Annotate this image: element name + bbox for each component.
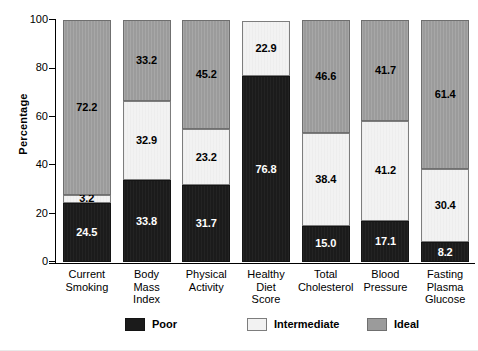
- legend-label: Ideal: [394, 319, 419, 330]
- bar-segment[interactable]: 38.4: [302, 133, 350, 226]
- legend-swatch-icon: [125, 318, 145, 331]
- bar-group[interactable]: 24.53.272.2: [63, 20, 111, 262]
- bar-stack: 24.53.272.2: [63, 20, 111, 262]
- bar-stack: 33.832.933.2: [123, 20, 171, 262]
- plot-area: 24.53.272.233.832.933.231.723.245.276.82…: [57, 20, 475, 262]
- bar-segment-value-label: 61.4: [435, 89, 456, 100]
- y-axis-tick-label: 80: [18, 62, 48, 73]
- bar-segment-value-label: 72.2: [76, 102, 97, 113]
- bar-group[interactable]: 15.038.446.6: [302, 20, 350, 262]
- x-axis-category-label-line: Glucose: [415, 293, 475, 306]
- bar-segment[interactable]: 17.1: [361, 221, 409, 262]
- legend-swatch-icon: [367, 318, 387, 331]
- legend-item[interactable]: Poor: [125, 316, 177, 332]
- bar-segment[interactable]: 72.2: [63, 20, 111, 195]
- bar-segment[interactable]: 15.0: [302, 226, 350, 262]
- bar-segment[interactable]: 45.2: [182, 20, 230, 129]
- bar-segment-value-label: 76.8: [255, 164, 276, 175]
- x-axis-category-label-line: Activity: [176, 281, 236, 294]
- x-axis-category-label-line: Pressure: [356, 281, 416, 294]
- y-axis-tick-label: 40: [18, 159, 48, 170]
- bar-segment-value-label: 33.8: [136, 216, 157, 227]
- bar-segment[interactable]: 22.9: [242, 21, 290, 76]
- bar-stack: 76.822.9: [242, 20, 290, 262]
- bar-segment-value-label: 30.4: [435, 200, 456, 211]
- bar-stack: 17.141.241.7: [361, 20, 409, 262]
- bar-segment[interactable]: 30.4: [421, 169, 469, 243]
- bar-segment[interactable]: 32.9: [123, 101, 171, 181]
- bar-segment-value-label: 15.0: [315, 238, 336, 249]
- bar-segment-value-label: 46.6: [315, 71, 336, 82]
- y-axis-tick-label: 20: [18, 208, 48, 219]
- bar-segment[interactable]: 41.2: [361, 121, 409, 221]
- bar-group[interactable]: 31.723.245.2: [182, 20, 230, 262]
- bar-group[interactable]: 33.832.933.2: [123, 20, 171, 262]
- legend-label: Poor: [152, 319, 177, 330]
- bar-segment[interactable]: 31.7: [182, 185, 230, 262]
- bar-segment-value-label: 8.2: [438, 247, 453, 258]
- bar-segment-value-label: 41.7: [375, 65, 396, 76]
- legend-swatch-icon: [247, 318, 267, 331]
- x-axis-category-label-line: Mass: [117, 281, 177, 294]
- x-axis-category-label-line: Cholesterol: [296, 281, 356, 294]
- y-axis-tick-label: 0: [18, 256, 48, 267]
- x-axis-category-label: FastingPlasmaGlucose: [415, 268, 475, 306]
- y-axis-tick-labels: 020406080100: [18, 14, 48, 264]
- x-axis-line: [49, 263, 475, 264]
- x-axis-category-label: HealthyDietScore: [236, 268, 296, 306]
- bar-stack: 15.038.446.6: [302, 20, 350, 262]
- bar-segment[interactable]: 41.7: [361, 20, 409, 121]
- bar-segment-value-label: 23.2: [196, 152, 217, 163]
- bar-segment-value-label: 17.1: [375, 236, 396, 247]
- bar-segment-value-label: 3.2: [79, 193, 94, 204]
- x-axis-category-label: TotalCholesterol: [296, 268, 356, 293]
- x-axis-category-label: CurrentSmoking: [57, 268, 117, 293]
- bar-segment[interactable]: 33.8: [123, 180, 171, 262]
- bar-segment[interactable]: 3.2: [63, 195, 111, 203]
- y-axis-line: [55, 19, 56, 264]
- bar-segment[interactable]: 76.8: [242, 76, 290, 262]
- bar-group[interactable]: 76.822.9: [242, 20, 290, 262]
- bar-segment-value-label: 33.2: [136, 55, 157, 66]
- x-axis-category-label-line: Smoking: [57, 281, 117, 294]
- bar-segment-value-label: 38.4: [315, 174, 336, 185]
- x-axis-category-label: BodyMassIndex: [117, 268, 177, 306]
- x-axis-category-label: BloodPressure: [356, 268, 416, 293]
- bar-segment-value-label: 45.2: [196, 69, 217, 80]
- x-axis-category-label-line: Healthy: [236, 268, 296, 281]
- bar-group[interactable]: 17.141.241.7: [361, 20, 409, 262]
- chart-legend: PoorIntermediateIdeal: [57, 316, 475, 334]
- bar-segment[interactable]: 23.2: [182, 129, 230, 185]
- y-axis-tick-label: 100: [18, 14, 48, 25]
- x-axis-category-label-line: Current: [57, 268, 117, 281]
- bar-segment-value-label: 32.9: [136, 135, 157, 146]
- y-axis-tick-label: 60: [18, 111, 48, 122]
- bar-segment[interactable]: 8.2: [421, 242, 469, 262]
- bar-group[interactable]: 8.230.461.4: [421, 20, 469, 262]
- legend-label: Intermediate: [274, 319, 339, 330]
- x-axis-category-label-line: Diet: [236, 281, 296, 294]
- bar-segment[interactable]: 61.4: [421, 20, 469, 169]
- bar-segment-value-label: 22.9: [255, 43, 276, 54]
- x-axis-category-label-line: Blood: [356, 268, 416, 281]
- x-axis-category-label-line: Body: [117, 268, 177, 281]
- bar-segment[interactable]: 33.2: [123, 20, 171, 100]
- bar-segment[interactable]: 46.6: [302, 20, 350, 133]
- bar-stack: 8.230.461.4: [421, 20, 469, 262]
- bar-segment-value-label: 41.2: [375, 165, 396, 176]
- chart-figure: Percentage 020406080100 24.53.272.233.83…: [0, 0, 478, 351]
- bar-segment[interactable]: 24.5: [63, 203, 111, 262]
- bar-segment-value-label: 24.5: [76, 227, 97, 238]
- x-axis-category-label-line: Plasma: [415, 281, 475, 294]
- x-axis-category-label-line: Index: [117, 293, 177, 306]
- x-axis-category-label-line: Physical: [176, 268, 236, 281]
- x-axis-category-label-line: Score: [236, 293, 296, 306]
- x-axis-category-label: PhysicalActivity: [176, 268, 236, 293]
- bar-stack: 31.723.245.2: [182, 20, 230, 262]
- x-axis-category-label-line: Fasting: [415, 268, 475, 281]
- bar-segment-value-label: 31.7: [196, 218, 217, 229]
- x-axis-category-label-line: Total: [296, 268, 356, 281]
- legend-item[interactable]: Ideal: [367, 316, 419, 332]
- legend-item[interactable]: Intermediate: [247, 316, 339, 332]
